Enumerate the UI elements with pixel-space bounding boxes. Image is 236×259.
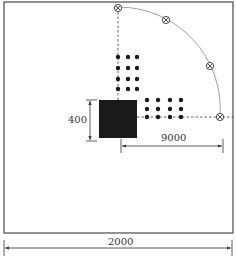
dot-grid-vertical [116,55,139,91]
center-block [99,100,137,138]
radius-dimension-label: 9000 [161,132,186,143]
height-dimension [86,100,97,141]
height-dimension-label: 400 [68,114,87,125]
layout-diagram: 400 9000 2000 [0,0,236,259]
width-dimension-label: 2000 [108,236,133,247]
dot-grid-horizontal [145,98,183,119]
